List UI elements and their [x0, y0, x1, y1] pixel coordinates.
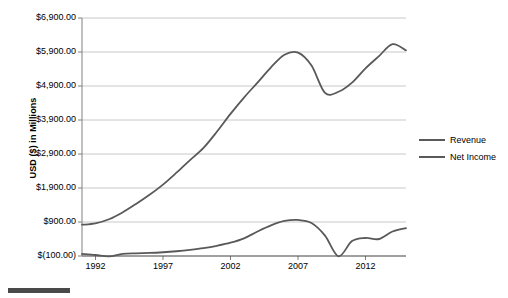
line-chart: USD ($) in Millions $6,900.00$5,900.00$4…: [0, 0, 508, 298]
x-axis-tick-label: 2012: [343, 262, 389, 271]
x-axis-tick-label: 2007: [275, 262, 321, 271]
x-axis-tick-label: 2002: [208, 262, 254, 271]
x-axis-tick-label: 1997: [140, 262, 186, 271]
legend-item-net-income[interactable]: Net Income: [419, 148, 507, 165]
x-axis-tick-marks: [96, 256, 366, 260]
legend-label-net-income: Net Income: [450, 152, 496, 162]
legend-line-net-income: [419, 156, 445, 158]
legend-item-revenue[interactable]: Revenue: [419, 131, 507, 148]
series-line-revenue: [82, 44, 406, 225]
gridlines: [78, 18, 406, 256]
data-series: [82, 44, 406, 256]
legend-label-revenue: Revenue: [450, 135, 486, 145]
series-line-net-income: [82, 220, 406, 257]
chart-legend: Revenue Net Income: [419, 131, 507, 165]
x-axis-tick-label: 1992: [73, 262, 119, 271]
bottom-progress-bar: [8, 288, 70, 293]
legend-line-revenue: [419, 139, 445, 141]
x-axis-tick-labels: 19921997200220072012: [0, 262, 508, 276]
